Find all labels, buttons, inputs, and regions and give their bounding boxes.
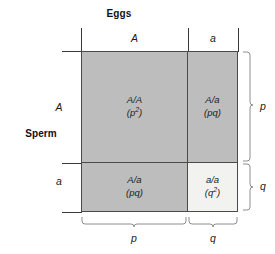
frequency-base: (pq)	[126, 187, 143, 198]
eggs-axis-title: Eggs	[0, 8, 238, 19]
row-tick-bottom	[62, 212, 82, 213]
punnett-cell-Aa-bottom-left: A/a (pq)	[82, 163, 188, 211]
row-tick-top	[62, 51, 82, 52]
egg-allele-label-a: a	[188, 32, 238, 44]
frequency-base: (q	[205, 187, 213, 198]
right-brace-q	[242, 163, 255, 212]
column-tick-left	[81, 28, 82, 52]
punnett-square-diagram: Eggs Sperm A a A a A/A (p2) A/a (pq) A/a…	[0, 0, 275, 254]
bottom-brace-q	[188, 216, 238, 229]
frequency-close: )	[217, 187, 220, 198]
right-brace-label-p: p	[256, 100, 270, 112]
right-brace-p	[242, 51, 255, 163]
sperm-axis-title: Sperm	[6, 128, 76, 139]
frequency-base: (p	[127, 107, 135, 118]
frequency-label: (p2)	[127, 107, 143, 120]
frequency-label: (pq)	[204, 107, 221, 120]
column-tick-middle	[188, 28, 189, 52]
frequency-base: (pq)	[204, 107, 221, 118]
right-brace-label-q: q	[256, 180, 270, 192]
genotype-label: A/a	[127, 174, 141, 187]
frequency-label: (pq)	[126, 187, 143, 200]
punnett-grid: A/A (p2) A/a (pq) A/a (pq) a/a (q2)	[81, 51, 238, 212]
row-tick-middle	[62, 163, 82, 164]
column-tick-right	[238, 28, 239, 52]
bottom-brace-label-q: q	[188, 232, 238, 244]
genotype-label: A/a	[205, 94, 219, 107]
punnett-cell-aa: a/a (q2)	[188, 163, 237, 211]
bottom-brace-label-p: p	[81, 232, 187, 244]
sperm-allele-label-A: A	[46, 101, 72, 113]
bottom-brace-p	[81, 216, 187, 229]
frequency-close: )	[139, 107, 142, 118]
egg-allele-label-A: A	[81, 32, 188, 44]
punnett-cell-Aa-top-right: A/a (pq)	[188, 52, 237, 163]
punnett-cell-AA: A/A (p2)	[82, 52, 188, 163]
frequency-label: (q2)	[205, 187, 221, 200]
sperm-allele-label-a: a	[46, 175, 72, 187]
